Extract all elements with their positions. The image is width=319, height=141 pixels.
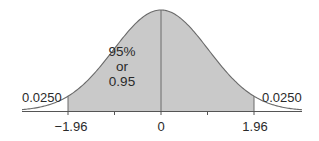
normal-distribution-chart: 0.0250 0.0250 95% or 0.95 −1.96 0 1.96 <box>0 0 319 141</box>
center-label-or: or <box>116 59 129 74</box>
left-tail-label: 0.0250 <box>22 90 62 105</box>
center-label-percent: 95% <box>108 44 135 59</box>
tick-label-neg-1-96: −1.96 <box>55 119 88 134</box>
right-tail-label: 0.0250 <box>262 90 302 105</box>
center-label-decimal: 0.95 <box>109 74 135 89</box>
tick-label-0: 0 <box>157 119 164 134</box>
tick-label-1-96: 1.96 <box>242 119 267 134</box>
